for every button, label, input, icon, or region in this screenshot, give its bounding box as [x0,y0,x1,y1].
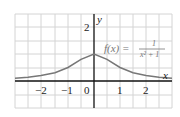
tick-label-neg1: −1 [61,84,73,96]
tick-label-1: 1 [117,84,123,96]
ytick-label-2: 2 [84,21,90,33]
formula-lhs: f(x) = [104,42,129,55]
tick-label-0: 0 [84,84,90,96]
formula-denominator: x² + 1 [139,50,159,59]
tick-label-2: 2 [143,84,149,96]
y-axis-label: y [96,13,102,25]
tick-label-neg2: −2 [35,84,47,96]
formula-numerator: 1 [152,39,156,48]
chart-canvas: −2 −1 0 1 2 2 y x f(x) = 1 x² + 1 [0,0,180,117]
x-axis-label: x [162,69,168,81]
formula-annotation: f(x) = 1 x² + 1 [104,39,165,59]
